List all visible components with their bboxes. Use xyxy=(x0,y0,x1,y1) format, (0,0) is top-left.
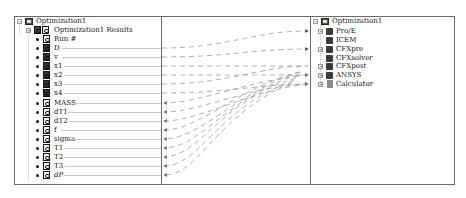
component-icon xyxy=(326,37,333,44)
component-icon xyxy=(326,55,333,62)
calculator-icon xyxy=(327,80,333,88)
component-label: CFXpre xyxy=(336,45,363,54)
component-icon xyxy=(326,28,333,35)
optimization-folder-icon xyxy=(321,18,329,25)
component-label: ICEM xyxy=(336,36,356,45)
expand-icon[interactable]: + xyxy=(318,29,323,34)
expand-icon[interactable]: + xyxy=(318,47,323,52)
expand-icon[interactable]: + xyxy=(318,64,323,69)
collapse-icon[interactable]: − xyxy=(313,19,318,24)
component-icon xyxy=(326,46,333,53)
component-icon xyxy=(326,63,333,70)
expand-icon[interactable]: + xyxy=(318,82,323,87)
expand-icon[interactable]: + xyxy=(318,73,323,78)
component-label: Pro/E xyxy=(336,27,356,36)
mapping-connections xyxy=(0,0,466,198)
component-label: CFXpost xyxy=(336,62,366,71)
component-label: Calculator xyxy=(336,80,373,89)
component-label: ANSYS xyxy=(336,71,361,80)
root-label: Optimization1 xyxy=(332,17,382,26)
component-icon xyxy=(326,72,333,79)
